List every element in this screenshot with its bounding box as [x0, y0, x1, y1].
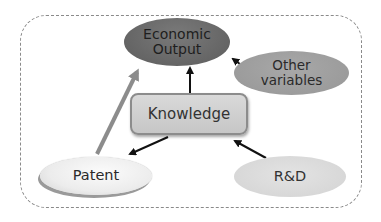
node-patent: Patent — [40, 157, 152, 195]
node-other-variables-label-line2: variables — [261, 73, 323, 88]
node-economic-output-label-line2: Output — [143, 42, 211, 57]
node-rnd: R&D — [234, 156, 346, 197]
arrow-knowledge-to-patent — [130, 137, 168, 154]
node-knowledge-label: Knowledge — [148, 106, 230, 123]
node-other-variables-label-line1: Other — [261, 58, 323, 73]
node-rnd-label: R&D — [274, 169, 307, 185]
arrow-rnd-to-knowledge — [235, 141, 266, 158]
node-other-variables: Other variables — [234, 51, 349, 95]
node-economic-output: Economic Output — [124, 18, 230, 66]
node-knowledge: Knowledge — [130, 93, 248, 135]
node-economic-output-label-line1: Economic — [143, 27, 211, 42]
node-patent-label: Patent — [73, 168, 119, 184]
